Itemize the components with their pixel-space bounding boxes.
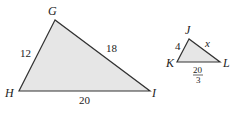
side-jk-label: 4	[175, 40, 181, 52]
similar-triangles-diagram: G H I 12 18 20 J K L 4 x 20 3	[0, 0, 233, 116]
side-jl-label: x	[204, 37, 210, 49]
vertex-k-label: K	[165, 56, 175, 70]
vertex-g-label: G	[48, 4, 57, 18]
side-gh-label: 12	[20, 47, 31, 59]
vertex-j-label: J	[185, 23, 191, 37]
side-kl-numerator: 20	[193, 65, 203, 75]
side-kl-denominator: 3	[196, 75, 201, 85]
side-hi-label: 20	[79, 94, 91, 106]
side-gi-label: 18	[106, 42, 118, 54]
triangle-ghi	[19, 20, 150, 91]
vertex-h-label: H	[4, 86, 15, 100]
vertex-l-label: L	[222, 56, 230, 70]
triangle-jkl	[177, 39, 220, 62]
vertex-i-label: I	[151, 86, 157, 100]
